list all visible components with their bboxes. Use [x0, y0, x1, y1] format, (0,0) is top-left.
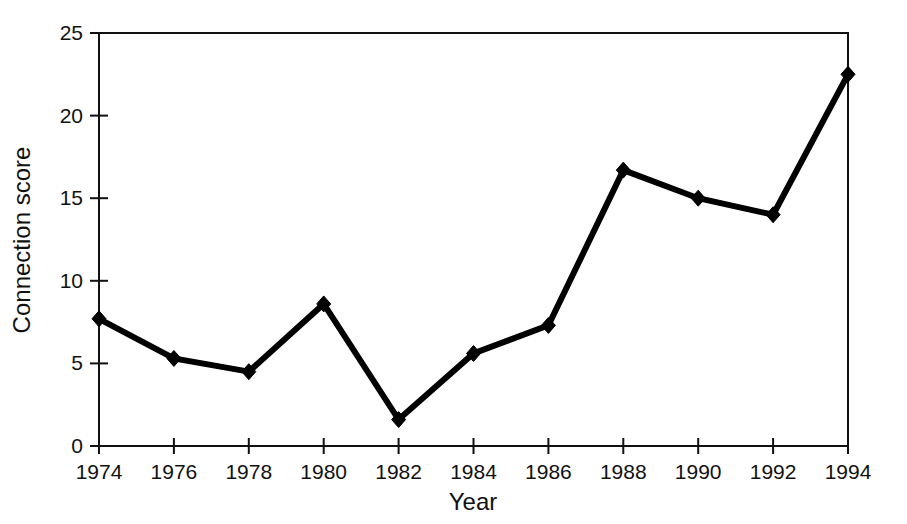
x-tick-label: 1984 [450, 460, 497, 483]
x-tick-label: 1976 [151, 460, 198, 483]
x-axis-ticks: 1974197619781980198219841986198819901992… [76, 438, 872, 483]
x-tick-label: 1980 [300, 460, 347, 483]
x-axis-title: Year [449, 488, 498, 515]
y-axis-ticks: 0510152025 [60, 21, 108, 457]
x-tick-label: 1986 [525, 460, 572, 483]
data-point-marker [691, 190, 705, 206]
plot-frame [99, 33, 848, 446]
y-tick-label: 25 [60, 21, 83, 44]
data-series-line [99, 74, 848, 419]
y-axis-title: Connection score [8, 147, 35, 334]
x-tick-label: 1982 [375, 460, 422, 483]
y-tick-label: 20 [60, 104, 83, 127]
x-tick-label: 1974 [76, 460, 123, 483]
y-tick-label: 10 [60, 269, 83, 292]
plot-area-border [99, 33, 848, 446]
x-tick-label: 1990 [675, 460, 722, 483]
x-tick-label: 1988 [600, 460, 647, 483]
x-tick-label: 1978 [225, 460, 272, 483]
x-tick-label: 1992 [750, 460, 797, 483]
data-point-markers [92, 66, 855, 427]
line-chart: 0510152025 19741976197819801982198419861… [0, 0, 907, 524]
y-tick-label: 15 [60, 186, 83, 209]
chart-canvas: 0510152025 19741976197819801982198419861… [0, 0, 907, 524]
y-tick-label: 0 [71, 434, 83, 457]
x-tick-label: 1994 [825, 460, 872, 483]
y-tick-label: 5 [71, 351, 83, 374]
